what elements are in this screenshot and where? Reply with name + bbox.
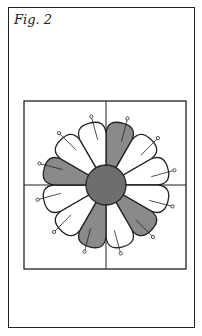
pin-head-icon <box>57 131 60 134</box>
pin-head-icon <box>90 115 93 118</box>
pin-head-icon <box>126 117 129 120</box>
pin-head-icon <box>156 136 159 139</box>
pin-head-icon <box>173 169 176 172</box>
quilt-block-diagram <box>0 0 202 336</box>
pin-head-icon <box>38 162 41 165</box>
center-circle <box>86 165 126 205</box>
pin-head-icon <box>83 250 86 253</box>
pin-head-icon <box>119 252 122 255</box>
pin-head-icon <box>151 235 154 238</box>
pin-head-icon <box>171 205 174 208</box>
pin-head-icon <box>52 230 55 233</box>
pin-head-icon <box>36 198 39 201</box>
